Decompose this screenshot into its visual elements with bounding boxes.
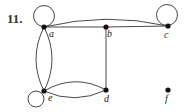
- loop-c: [157, 5, 178, 26]
- graph-diagram: [0, 0, 185, 112]
- label-d: d: [104, 93, 109, 104]
- vertex-c: [165, 23, 170, 28]
- loop-e: [28, 91, 44, 107]
- vertex-f: [165, 87, 170, 92]
- vertex-d: [103, 87, 108, 92]
- edge-a-e-1: [36, 27, 44, 91]
- edge-e-d-1: [44, 82, 106, 91]
- vertex-e: [41, 88, 46, 93]
- label-b: b: [107, 28, 112, 39]
- label-c: c: [164, 29, 168, 40]
- loop-a: [34, 6, 55, 27]
- label-a: a: [49, 28, 54, 39]
- edge-e-d-2: [44, 90, 106, 98]
- label-e: e: [48, 92, 52, 103]
- vertex-a: [41, 24, 46, 29]
- edge-b-c: [106, 26, 168, 27]
- label-f: f: [165, 93, 168, 104]
